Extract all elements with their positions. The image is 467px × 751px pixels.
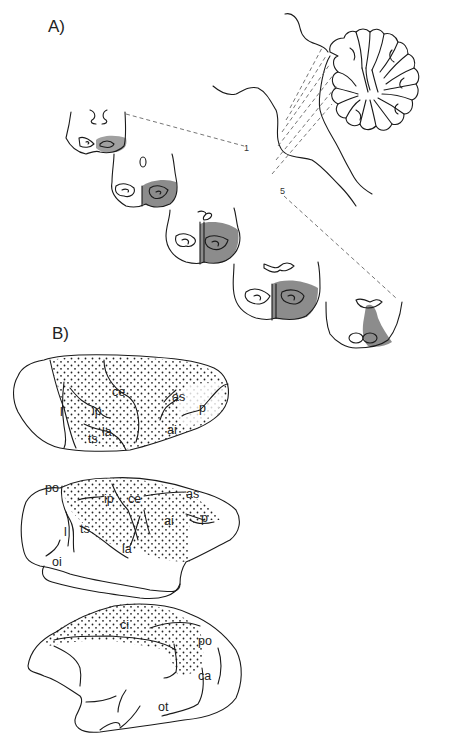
sulcus-label-l: l bbox=[64, 525, 67, 539]
sulcus-label-ts: ts bbox=[88, 432, 98, 446]
panel-a: A) 1 5 bbox=[48, 14, 419, 348]
section-marker-5: 5 bbox=[280, 186, 285, 196]
sulcus-label-oi: oi bbox=[52, 555, 62, 569]
panel-b: B) ce as ip p l ai ts la bbox=[14, 324, 242, 732]
leader-line-section-1 bbox=[126, 114, 244, 146]
sulcus-label-ot: ot bbox=[158, 700, 169, 714]
section-marker-1: 1 bbox=[244, 143, 249, 153]
sulcus-label-ai: ai bbox=[164, 514, 174, 528]
coronal-section-4 bbox=[233, 262, 320, 320]
sulcus-label-ce: ce bbox=[128, 492, 141, 506]
sulcus-label-as: as bbox=[186, 487, 199, 501]
sulcus-label-l: l bbox=[60, 405, 63, 419]
sulcus-label-po: po bbox=[45, 481, 59, 495]
sulcus-label-ca: ca bbox=[198, 669, 211, 683]
coronal-section-1 bbox=[66, 110, 127, 154]
sulcus-label-ce: ce bbox=[112, 385, 125, 399]
brainstem-outline bbox=[213, 14, 372, 206]
sulcus-label-ai: ai bbox=[167, 423, 177, 437]
sulcus-label-ip: ip bbox=[104, 492, 114, 506]
panel-a-label: A) bbox=[48, 17, 65, 36]
hemisphere-view-lateral: po ip ce as ai p l ts la oi bbox=[21, 478, 239, 599]
coronal-section-2 bbox=[112, 154, 177, 207]
coronal-section-5 bbox=[326, 299, 402, 348]
sulcus-label-po: po bbox=[198, 634, 212, 648]
coronal-section-3 bbox=[166, 208, 240, 264]
sulcus-label-la: la bbox=[122, 542, 132, 556]
figure-canvas: A) 1 5 bbox=[0, 0, 467, 751]
panel-b-label: B) bbox=[52, 324, 69, 343]
cerebellum bbox=[330, 29, 419, 130]
sulcus-label-ip: ip bbox=[92, 404, 102, 418]
sulcus-label-la: la bbox=[102, 425, 112, 439]
sulcus-label-ci: ci bbox=[120, 618, 129, 632]
sulcus-label-p: p bbox=[201, 511, 208, 525]
hemisphere-view-dorsolateral: ce as ip p l ai ts la bbox=[14, 355, 229, 452]
sulcus-label-ts: ts bbox=[80, 522, 90, 536]
sulcus-label-as: as bbox=[172, 390, 185, 404]
hemisphere-view-medial: ci po ca ot bbox=[28, 604, 241, 733]
sulcus-label-p: p bbox=[199, 401, 206, 415]
left-nucleus-outline bbox=[349, 333, 363, 343]
